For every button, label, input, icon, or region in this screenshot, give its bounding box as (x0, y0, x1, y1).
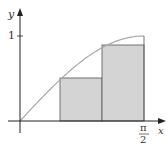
x-axis-label: x (158, 125, 164, 136)
riemann-sum-chart: y 1 x π 2 (0, 0, 168, 146)
y-axis-label: y (8, 8, 14, 21)
riemann-rect-3 (102, 45, 144, 121)
x-axis-arrow-icon (158, 118, 166, 124)
y-tick-label: 1 (8, 29, 15, 42)
riemann-rect-2 (60, 78, 102, 121)
x-tick-numerator: π (140, 122, 147, 133)
y-axis-arrow-icon (17, 8, 23, 16)
x-tick-denominator: 2 (140, 134, 146, 145)
